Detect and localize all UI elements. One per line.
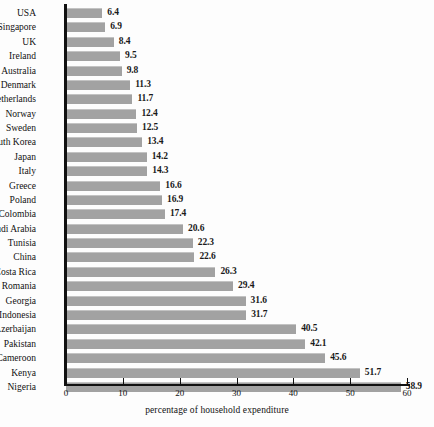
category-label: Azerbaijan bbox=[0, 323, 36, 335]
category-label: Italy bbox=[0, 165, 36, 177]
category-label: South Korea bbox=[0, 136, 36, 148]
category-label: Sweden bbox=[0, 122, 36, 134]
bar-row: 31.6Georgia bbox=[66, 296, 407, 306]
category-label: Greece bbox=[0, 180, 36, 192]
bar-value-label: 17.4 bbox=[170, 207, 186, 219]
category-label: Romania bbox=[0, 280, 36, 292]
bar-row: 12.4Norway bbox=[66, 109, 407, 119]
x-axis-tick-label: 30 bbox=[232, 388, 241, 398]
category-label: Australia bbox=[0, 65, 36, 77]
category-label: UK bbox=[0, 36, 36, 48]
category-label: Norway bbox=[0, 108, 36, 120]
bar-row: 14.2Japan bbox=[66, 152, 407, 162]
bar-value-label: 16.6 bbox=[165, 179, 181, 191]
bar-value-label: 29.4 bbox=[238, 279, 254, 291]
bar-value-label: 9.8 bbox=[127, 64, 139, 76]
category-label: Tunisia bbox=[0, 237, 36, 249]
bar bbox=[66, 267, 215, 277]
bar-chart: 6.4USA6.9Singapore8.4UK9.5Ireland9.8Aust… bbox=[0, 0, 434, 427]
bar-row: 16.6Greece bbox=[66, 181, 407, 191]
category-label: Denmark bbox=[0, 79, 36, 91]
bar-value-label: 12.4 bbox=[141, 107, 157, 119]
category-label: Nigeria bbox=[0, 381, 36, 393]
bar bbox=[66, 252, 194, 262]
bar bbox=[66, 8, 102, 18]
bar-row: 29.4Romania bbox=[66, 281, 407, 291]
bar-value-label: 11.3 bbox=[135, 78, 151, 90]
category-label: Pakistan bbox=[0, 338, 36, 350]
bar-value-label: 8.4 bbox=[119, 35, 131, 47]
x-axis-tick bbox=[293, 378, 294, 384]
y-axis-line bbox=[64, 4, 67, 386]
bar-value-label: 14.3 bbox=[152, 164, 168, 176]
bar-value-label: 20.6 bbox=[188, 222, 204, 234]
bar-value-label: 40.5 bbox=[301, 322, 317, 334]
bar-value-label: 9.5 bbox=[125, 49, 137, 61]
bar bbox=[66, 324, 296, 334]
plot-area: 6.4USA6.9Singapore8.4UK9.5Ireland9.8Aust… bbox=[66, 8, 407, 385]
category-label: Cameroon bbox=[0, 352, 36, 364]
x-axis-line bbox=[64, 384, 410, 386]
x-axis-tick-label: 60 bbox=[403, 388, 412, 398]
bar-row: 6.9Singapore bbox=[66, 22, 407, 32]
x-axis-tick-label: 40 bbox=[289, 388, 298, 398]
bar-row: 8.4UK bbox=[66, 37, 407, 47]
bar-row: 51.7Kenya bbox=[66, 368, 407, 378]
bar-value-label: 31.7 bbox=[251, 308, 267, 320]
bar-row: 13.4South Korea bbox=[66, 137, 407, 147]
bar-row: 11.7Netherlands bbox=[66, 94, 407, 104]
x-axis-tick-label: 0 bbox=[64, 388, 69, 398]
category-label: Colombia bbox=[0, 208, 36, 220]
bar bbox=[66, 209, 165, 219]
bar-row: 22.3Tunisia bbox=[66, 238, 407, 248]
category-label: Costa Rica bbox=[0, 266, 36, 278]
bar bbox=[66, 66, 122, 76]
bar bbox=[66, 368, 360, 378]
x-axis-tick bbox=[66, 378, 67, 384]
bar bbox=[66, 224, 183, 234]
bar-row: 9.5Ireland bbox=[66, 51, 407, 61]
bar bbox=[66, 94, 132, 104]
category-label: USA bbox=[0, 7, 36, 19]
x-axis-tick bbox=[237, 378, 238, 384]
bar bbox=[66, 166, 147, 176]
bar-value-label: 26.3 bbox=[220, 265, 236, 277]
bar-value-label: 22.3 bbox=[198, 236, 214, 248]
x-axis-tick bbox=[407, 378, 408, 384]
x-axis-tick-label: 50 bbox=[346, 388, 355, 398]
bar-value-label: 12.5 bbox=[142, 121, 158, 133]
bar-row: 26.3Costa Rica bbox=[66, 267, 407, 277]
category-label: Poland bbox=[0, 194, 36, 206]
x-axis-tick-label: 20 bbox=[175, 388, 184, 398]
category-label: Indonesia bbox=[0, 309, 36, 321]
bar-value-label: 11.7 bbox=[137, 92, 153, 104]
bar bbox=[66, 195, 162, 205]
bar-value-label: 51.7 bbox=[365, 366, 381, 378]
bar-value-label: 6.9 bbox=[110, 20, 122, 32]
category-label: Saudi Arabia bbox=[0, 223, 36, 235]
bar-row: 22.6China bbox=[66, 252, 407, 262]
bar-row: 9.8Australia bbox=[66, 66, 407, 76]
bar bbox=[66, 80, 130, 90]
x-axis-tick bbox=[123, 378, 124, 384]
bar bbox=[66, 281, 233, 291]
x-axis-tick-label: 10 bbox=[118, 388, 127, 398]
bar-row: 11.3Denmark bbox=[66, 80, 407, 90]
category-label: Ireland bbox=[0, 50, 36, 62]
bar bbox=[66, 310, 246, 320]
x-axis-tick bbox=[180, 378, 181, 384]
bar-row: 6.4USA bbox=[66, 8, 407, 18]
category-label: Japan bbox=[0, 151, 36, 163]
bar-value-label: 14.2 bbox=[152, 150, 168, 162]
bar-row: 12.5Sweden bbox=[66, 123, 407, 133]
bar-value-label: 6.4 bbox=[107, 6, 119, 18]
bar-row: 16.9Poland bbox=[66, 195, 407, 205]
category-label: Netherlands bbox=[0, 93, 36, 105]
bar bbox=[66, 181, 160, 191]
bar-value-label: 16.9 bbox=[167, 193, 183, 205]
bar bbox=[66, 22, 105, 32]
bar-row: 45.6Cameroon bbox=[66, 353, 407, 363]
bar bbox=[66, 109, 136, 119]
bar-row: 42.1Pakistan bbox=[66, 339, 407, 349]
category-label: China bbox=[0, 251, 36, 263]
